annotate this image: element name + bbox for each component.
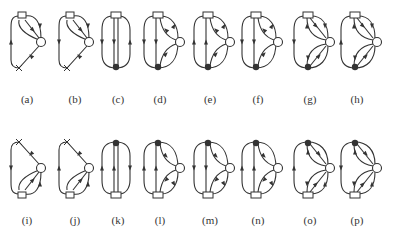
panel-label: (l) bbox=[155, 214, 165, 226]
diagram-c bbox=[100, 12, 132, 70]
panel-label: (p) bbox=[351, 214, 364, 226]
diagram-h bbox=[339, 12, 382, 70]
panel-label: (n) bbox=[252, 214, 265, 226]
panel-label: (j) bbox=[70, 214, 80, 226]
diagram-e bbox=[192, 12, 235, 70]
panel-label: (i) bbox=[22, 214, 32, 226]
diagram-g bbox=[292, 12, 335, 70]
panel-label: (d) bbox=[154, 93, 167, 105]
panel-label: (c) bbox=[112, 93, 124, 105]
diagram-m bbox=[192, 140, 235, 198]
panel-label: (f) bbox=[253, 93, 264, 105]
panel-label: (k) bbox=[112, 214, 125, 226]
diagram-f bbox=[240, 12, 283, 70]
diagram-a bbox=[9, 12, 46, 71]
diagram-j bbox=[57, 139, 94, 198]
diagram-o bbox=[292, 140, 335, 198]
diagram-b bbox=[57, 12, 94, 71]
diagram-k bbox=[100, 140, 132, 198]
panel-label: (o) bbox=[304, 214, 317, 226]
diagram-d bbox=[142, 12, 185, 70]
diagram-l bbox=[142, 140, 185, 198]
panel-label: (m) bbox=[202, 214, 218, 226]
panel-label: (g) bbox=[304, 93, 317, 105]
diagram-i bbox=[9, 139, 46, 198]
panel-label: (b) bbox=[69, 93, 82, 105]
diagram-n bbox=[240, 140, 283, 198]
panel-label: (e) bbox=[204, 93, 216, 105]
panel-label: (h) bbox=[351, 93, 364, 105]
diagram-p bbox=[339, 140, 382, 198]
panel-label: (a) bbox=[21, 93, 33, 105]
